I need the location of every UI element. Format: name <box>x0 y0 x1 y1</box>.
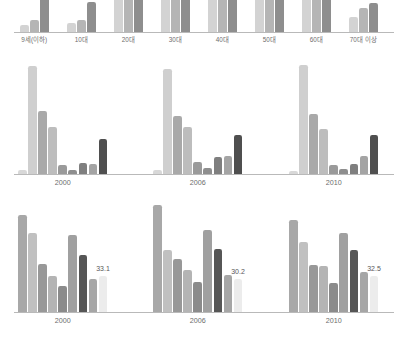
middle-axis-line <box>14 174 394 175</box>
bar <box>40 0 49 32</box>
age-distribution-chart: 9세(이하)10대20대30대40대50대60대70대 이상 <box>0 0 406 48</box>
bar: 33.1 <box>99 276 108 312</box>
bar <box>329 283 338 312</box>
bar <box>153 205 162 312</box>
bar <box>99 139 108 174</box>
bar <box>275 0 284 32</box>
age-axis-line <box>14 32 394 33</box>
group-label: 2000 <box>33 178 93 187</box>
middle-trend-chart: 200020062010 <box>0 62 406 196</box>
bar <box>67 23 76 32</box>
bar <box>48 276 57 312</box>
bar <box>370 135 379 174</box>
age-tick-label: 60대 <box>291 36 341 44</box>
age-plot-area <box>0 0 406 32</box>
bar <box>360 272 369 312</box>
bar <box>28 66 37 174</box>
bar <box>339 233 348 312</box>
bar <box>350 250 359 312</box>
bar <box>163 69 172 174</box>
bar <box>163 250 172 312</box>
bar <box>224 156 233 174</box>
age-tick-label: 70대 이상 <box>338 36 388 44</box>
bar <box>77 20 86 32</box>
bar <box>20 25 29 32</box>
bar <box>58 165 67 174</box>
bar: 32.5 <box>370 276 379 312</box>
bar <box>79 163 88 174</box>
bar <box>369 3 378 32</box>
bar <box>89 279 98 312</box>
bar <box>79 255 88 312</box>
bottom-axis-line <box>14 312 394 313</box>
bar <box>329 165 338 174</box>
bar <box>309 265 318 312</box>
age-tick-label: 20대 <box>103 36 153 44</box>
bottom-plot-area: 33.130.232.5 <box>0 202 406 312</box>
bar <box>30 20 39 32</box>
bar <box>214 157 223 174</box>
bar <box>134 0 143 32</box>
bar <box>319 266 328 312</box>
bar <box>234 135 243 174</box>
bar <box>319 129 328 174</box>
bar <box>203 230 212 313</box>
middle-plot-area <box>0 62 406 174</box>
bar <box>114 0 123 32</box>
bar <box>218 0 227 32</box>
bar <box>322 0 331 32</box>
age-tick-label: 9세(이하) <box>9 36 59 44</box>
bar-value-label: 33.1 <box>96 265 110 273</box>
bar <box>359 8 368 32</box>
bar <box>299 242 308 312</box>
age-tick-label: 50대 <box>244 36 294 44</box>
bar <box>87 2 96 32</box>
bar <box>183 127 192 174</box>
bar <box>350 164 359 174</box>
bar <box>48 127 57 174</box>
bar <box>224 275 233 312</box>
group-label: 2010 <box>304 316 364 325</box>
bar <box>255 0 264 32</box>
bar <box>181 0 190 32</box>
bottom-index-chart: 33.130.232.5 200020062010 <box>0 202 406 338</box>
age-tick-label: 40대 <box>197 36 247 44</box>
bar <box>124 0 133 32</box>
bar <box>68 235 77 312</box>
bar <box>312 0 321 32</box>
bar <box>299 65 308 174</box>
bar <box>38 111 47 174</box>
bar <box>173 259 182 312</box>
bar <box>289 220 298 312</box>
group-label: 2010 <box>304 178 364 187</box>
age-tick-label: 30대 <box>150 36 200 44</box>
bar <box>28 233 37 312</box>
age-tick-label: 10대 <box>56 36 106 44</box>
bar <box>228 0 237 32</box>
bar <box>208 0 217 32</box>
bar <box>171 0 180 32</box>
bar <box>18 215 27 312</box>
bar-value-label: 30.2 <box>231 268 245 276</box>
bar <box>161 0 170 32</box>
bar <box>58 286 67 312</box>
bar <box>349 17 358 32</box>
group-label: 2006 <box>168 178 228 187</box>
bar-value-label: 32.5 <box>367 265 381 273</box>
bar <box>193 162 202 174</box>
bar <box>173 116 182 174</box>
bar: 30.2 <box>234 279 243 312</box>
bar <box>302 0 311 32</box>
bar <box>183 270 192 312</box>
bar <box>309 114 318 174</box>
bar <box>214 249 223 312</box>
group-label: 2000 <box>33 316 93 325</box>
bar <box>265 0 274 32</box>
group-label: 2006 <box>168 316 228 325</box>
bar <box>360 156 369 174</box>
bar <box>193 282 202 312</box>
bar <box>38 264 47 312</box>
bar <box>89 164 98 174</box>
